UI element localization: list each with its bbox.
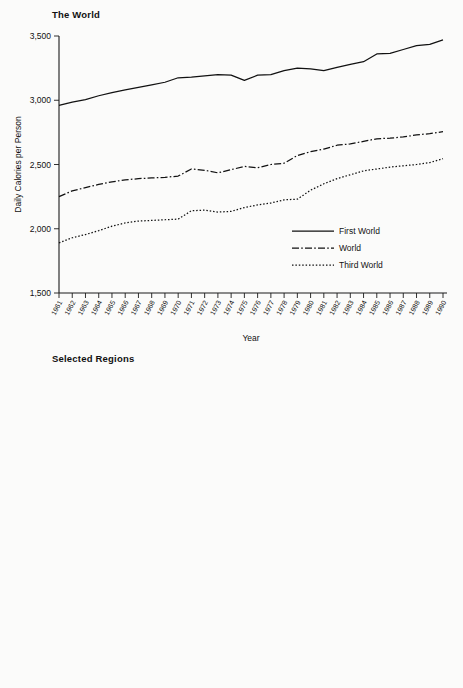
figure-page: The World 1,5002,0002,5003,0003,500Daily… <box>0 0 463 688</box>
chart-the-world: 1,5002,0002,5003,0003,500Daily Calories … <box>0 0 463 344</box>
x-tick-label: 1963 <box>76 299 90 316</box>
x-axis-title: Year <box>242 333 259 343</box>
x-tick-label: 1977 <box>262 299 276 316</box>
chart-panel-selected-regions: Selected Regions 1,9002,1002,3002,5002,7… <box>0 344 463 688</box>
legend-label: Third World <box>339 260 383 270</box>
x-tick-label: 1966 <box>116 299 130 316</box>
series-line <box>59 132 443 197</box>
y-tick-label: 2,500 <box>30 160 52 170</box>
x-tick-label: 1979 <box>288 299 302 316</box>
y-axis-title: Daily Calories per Person <box>13 116 23 213</box>
x-tick-label: 1987 <box>394 299 408 316</box>
x-tick-label: 1990 <box>434 299 448 316</box>
x-tick-label: 1973 <box>209 299 223 316</box>
x-tick-label: 1981 <box>315 299 329 316</box>
y-tick-label: 2,000 <box>30 224 52 234</box>
legend-label: First World <box>339 226 380 236</box>
x-tick-label: 1983 <box>341 299 355 316</box>
x-tick-label: 1974 <box>222 299 236 316</box>
x-tick-label: 1965 <box>103 299 117 316</box>
series-line <box>59 40 443 106</box>
x-tick-label: 1971 <box>182 299 196 316</box>
y-tick-label: 3,500 <box>30 31 52 41</box>
x-tick-label: 1988 <box>407 299 421 316</box>
chart-selected-regions: 1,9002,1002,3002,5002,7002,900Daily Calo… <box>0 344 463 688</box>
x-tick-label: 1978 <box>275 299 289 316</box>
x-tick-label: 1961 <box>50 299 64 316</box>
y-tick-label: 3,000 <box>30 95 52 105</box>
x-tick-label: 1982 <box>328 299 342 316</box>
x-tick-label: 1972 <box>196 299 210 316</box>
x-tick-label: 1967 <box>129 299 143 316</box>
x-tick-label: 1964 <box>90 299 104 316</box>
x-tick-label: 1970 <box>169 299 183 316</box>
x-tick-label: 1989 <box>421 299 435 316</box>
x-tick-label: 1968 <box>143 299 157 316</box>
x-tick-label: 1976 <box>249 299 263 316</box>
x-tick-label: 1980 <box>301 299 315 316</box>
x-tick-label: 1984 <box>354 299 368 316</box>
x-tick-label: 1975 <box>235 299 249 316</box>
x-tick-label: 1986 <box>381 299 395 316</box>
x-tick-label: 1969 <box>156 299 170 316</box>
x-tick-label: 1985 <box>368 299 382 316</box>
chart-panel-the-world: The World 1,5002,0002,5003,0003,500Daily… <box>0 0 463 344</box>
series-line <box>59 159 443 243</box>
y-tick-label: 1,500 <box>30 288 52 298</box>
legend-label: World <box>339 243 361 253</box>
x-tick-label: 1962 <box>63 299 77 316</box>
